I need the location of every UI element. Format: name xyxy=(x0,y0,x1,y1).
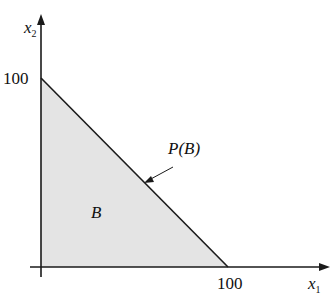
pointer-arrow-icon xyxy=(144,176,154,183)
y-axis-label: x2 xyxy=(23,18,37,39)
y-tick-label: 100 xyxy=(3,69,29,88)
diagram-svg: x2 100 100 x1 B P(B) xyxy=(0,0,336,297)
region-label: B xyxy=(91,203,102,222)
x-tick-label: 100 xyxy=(217,274,243,293)
pointer-line xyxy=(149,167,173,180)
x-axis-label: x1 xyxy=(307,274,321,295)
y-axis-arrow-icon xyxy=(37,14,45,25)
x-axis-arrow-icon xyxy=(319,263,330,271)
boundary-label: P(B) xyxy=(167,139,200,158)
diagram-canvas: x2 100 100 x1 B P(B) xyxy=(0,0,336,297)
